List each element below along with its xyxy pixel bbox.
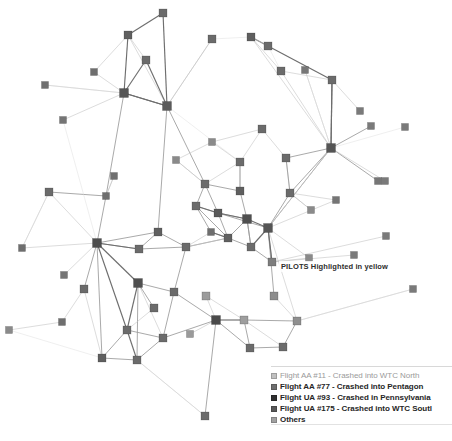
network-node[interactable] xyxy=(201,412,209,420)
network-node[interactable] xyxy=(208,229,215,236)
network-node[interactable] xyxy=(45,188,53,196)
network-edge xyxy=(186,238,228,247)
network-node[interactable] xyxy=(91,69,98,76)
pilots-annotation: PILOTS Highlighted in yellow xyxy=(279,261,390,272)
network-node[interactable] xyxy=(240,316,248,324)
network-edge xyxy=(97,243,138,283)
network-edge xyxy=(9,330,102,358)
network-node[interactable] xyxy=(402,124,409,131)
network-diagram: PILOTS Highlighted in yellow Flight AA #… xyxy=(0,0,452,441)
network-node[interactable] xyxy=(159,334,167,342)
network-node[interactable] xyxy=(202,292,210,300)
legend-item-aa77: Flight AA #77 - Crashed into Pentagon xyxy=(271,381,452,392)
network-node[interactable] xyxy=(150,304,158,312)
network-edge xyxy=(167,106,240,162)
network-node[interactable] xyxy=(243,215,252,224)
network-node[interactable] xyxy=(80,285,88,293)
network-edge xyxy=(305,70,331,148)
network-node[interactable] xyxy=(123,326,131,334)
network-edge xyxy=(128,35,167,106)
network-node[interactable] xyxy=(133,356,141,364)
network-node[interactable] xyxy=(135,245,143,253)
network-edge xyxy=(205,320,216,416)
network-node[interactable] xyxy=(308,207,315,214)
network-node[interactable] xyxy=(327,144,336,153)
network-node[interactable] xyxy=(124,31,132,39)
network-node[interactable] xyxy=(383,233,390,240)
network-node[interactable] xyxy=(98,354,106,362)
network-node[interactable] xyxy=(328,76,336,84)
network-node[interactable] xyxy=(163,102,172,111)
network-node[interactable] xyxy=(375,178,382,185)
network-node[interactable] xyxy=(142,56,150,64)
network-node[interactable] xyxy=(279,343,287,351)
network-edge xyxy=(331,148,378,181)
network-node[interactable] xyxy=(187,331,194,338)
network-node[interactable] xyxy=(103,193,110,200)
network-node[interactable] xyxy=(282,154,290,162)
network-node[interactable] xyxy=(6,327,13,334)
network-node[interactable] xyxy=(212,316,221,325)
network-edge xyxy=(94,35,128,72)
network-edge xyxy=(127,330,137,360)
network-node[interactable] xyxy=(173,157,180,164)
network-node[interactable] xyxy=(246,344,254,352)
network-node[interactable] xyxy=(270,292,278,300)
network-node[interactable] xyxy=(293,317,301,325)
network-edge xyxy=(331,126,371,148)
network-node[interactable] xyxy=(134,279,143,288)
network-node[interactable] xyxy=(209,139,216,146)
network-edge xyxy=(124,60,146,93)
network-edge xyxy=(124,35,128,93)
network-node[interactable] xyxy=(247,243,255,251)
network-edge xyxy=(22,192,49,248)
network-node[interactable] xyxy=(159,9,167,17)
network-node[interactable] xyxy=(410,286,417,293)
network-node[interactable] xyxy=(286,189,294,197)
network-node[interactable] xyxy=(120,89,129,98)
network-node[interactable] xyxy=(268,258,276,266)
network-node[interactable] xyxy=(111,173,118,180)
network-edge xyxy=(163,292,174,338)
network-node[interactable] xyxy=(351,252,358,259)
network-node[interactable] xyxy=(236,187,244,195)
network-edge xyxy=(97,243,127,330)
network-node[interactable] xyxy=(154,228,162,236)
legend-swatch-ua93 xyxy=(271,395,277,401)
network-node[interactable] xyxy=(201,180,209,188)
legend-item-aa11: Flight AA #11 - Crashed into WTC North xyxy=(271,370,452,381)
network-node[interactable] xyxy=(382,178,389,185)
network-node[interactable] xyxy=(247,33,255,41)
network-node[interactable] xyxy=(93,239,102,248)
network-edge xyxy=(268,193,290,228)
network-node[interactable] xyxy=(357,108,364,115)
network-node[interactable] xyxy=(224,234,232,242)
network-node[interactable] xyxy=(60,117,67,124)
network-node[interactable] xyxy=(214,209,222,217)
network-node[interactable] xyxy=(192,202,200,210)
network-node[interactable] xyxy=(59,319,66,326)
network-node[interactable] xyxy=(19,245,26,252)
network-node[interactable] xyxy=(182,243,190,251)
network-node[interactable] xyxy=(61,272,68,279)
network-node[interactable] xyxy=(236,158,244,166)
network-edge xyxy=(176,142,212,160)
network-node[interactable] xyxy=(264,224,273,233)
network-edge xyxy=(268,200,336,228)
network-edge xyxy=(268,228,309,258)
network-node[interactable] xyxy=(264,42,272,50)
network-edge xyxy=(290,148,331,193)
network-node[interactable] xyxy=(333,197,340,204)
network-node[interactable] xyxy=(258,125,266,133)
network-edge xyxy=(205,184,218,213)
network-node[interactable] xyxy=(368,123,375,130)
network-node[interactable] xyxy=(277,67,285,75)
network-node[interactable] xyxy=(302,67,309,74)
edge-layer xyxy=(9,13,413,416)
network-node[interactable] xyxy=(170,288,178,296)
network-edge xyxy=(212,37,251,39)
network-node[interactable] xyxy=(208,35,216,43)
legend-bottom-rule xyxy=(271,424,452,425)
network-node[interactable] xyxy=(42,82,49,89)
network-edge xyxy=(205,162,240,184)
